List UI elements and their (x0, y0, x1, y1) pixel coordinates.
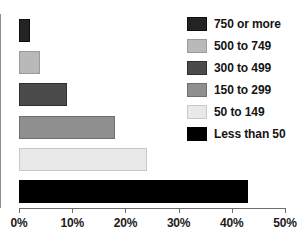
bar-50-to-149 (19, 148, 147, 171)
bar-150-to-299 (19, 116, 115, 139)
x-tick-label: 30% (167, 216, 190, 230)
bar-row (19, 180, 285, 203)
x-tick-mark (125, 208, 126, 213)
legend-item: Less than 50 (187, 123, 305, 145)
legend-label: Less than 50 (214, 127, 286, 141)
x-tick-label: 50% (273, 216, 296, 230)
legend-item: 500 to 749 (187, 35, 305, 57)
x-tick-label: 20% (114, 216, 137, 230)
legend-item: 150 to 299 (187, 79, 305, 101)
legend-swatch-icon (187, 127, 207, 141)
x-tick-mark (72, 208, 73, 213)
legend-label: 300 to 499 (214, 61, 271, 75)
x-tick-mark (19, 208, 20, 213)
legend-label: 500 to 749 (214, 39, 271, 53)
x-tick-mark (232, 208, 233, 213)
bar-500-to-749 (19, 51, 40, 74)
bar-row (19, 148, 285, 171)
x-tick-label: 0% (11, 216, 28, 230)
legend-item: 750 or more (187, 13, 305, 35)
legend-swatch-icon (187, 17, 207, 31)
legend-swatch-icon (187, 83, 207, 97)
bar-chart: 0%10%20%30%40%50% 750 or more500 to 7493… (0, 0, 305, 247)
legend-item: 300 to 499 (187, 57, 305, 79)
x-axis-line (19, 208, 285, 209)
bar-300-to-499 (19, 83, 67, 106)
x-tick-mark (285, 208, 286, 213)
legend-swatch-icon (187, 39, 207, 53)
legend-swatch-icon (187, 61, 207, 75)
legend-item: 50 to 149 (187, 101, 305, 123)
y-axis-line (0, 14, 1, 208)
x-tick-label: 40% (220, 216, 243, 230)
x-tick-mark (179, 208, 180, 213)
legend-swatch-icon (187, 105, 207, 119)
x-tick-label: 10% (60, 216, 83, 230)
bar-750-or-more (19, 19, 30, 42)
legend: 750 or more500 to 749300 to 499150 to 29… (187, 13, 305, 145)
legend-label: 150 to 299 (214, 83, 271, 97)
legend-label: 50 to 149 (214, 105, 264, 119)
bar-less-than-50 (19, 180, 248, 203)
legend-label: 750 or more (214, 17, 281, 31)
